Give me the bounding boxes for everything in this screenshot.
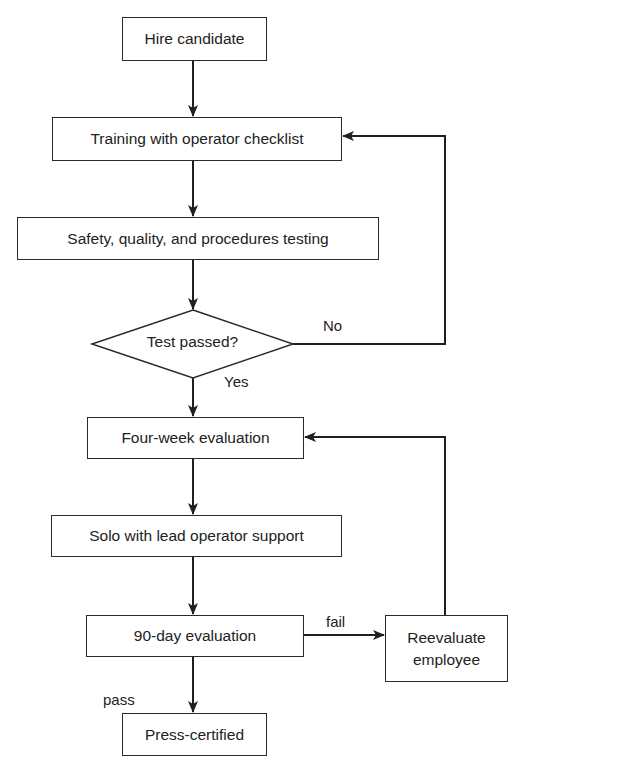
node-testing: Safety, quality, and procedures testing xyxy=(17,217,379,260)
node-training: Training with operator checklist xyxy=(52,117,342,161)
node-hire-candidate: Hire candidate xyxy=(122,17,267,61)
node-label-line2: employee xyxy=(413,649,480,671)
node-label: Solo with lead operator support xyxy=(89,525,304,547)
node-label: Hire candidate xyxy=(145,28,245,50)
edge-label-fail: fail xyxy=(326,613,345,630)
node-label-line1: Reevaluate xyxy=(407,627,485,649)
edge-label-yes: Yes xyxy=(224,373,248,390)
node-solo-support: Solo with lead operator support xyxy=(51,515,342,557)
node-press-certified: Press-certified xyxy=(122,713,267,756)
node-label: Press-certified xyxy=(145,724,244,746)
node-four-week-evaluation: Four-week evaluation xyxy=(87,417,304,459)
node-label: Training with operator checklist xyxy=(90,128,303,150)
decision-label: Test passed? xyxy=(92,333,293,351)
edge-label-no: No xyxy=(323,317,342,334)
flowchart-canvas: Hire candidate Training with operator ch… xyxy=(0,0,633,774)
node-label: 90-day evaluation xyxy=(134,625,256,647)
node-label: Safety, quality, and procedures testing xyxy=(67,228,328,250)
node-reevaluate-employee: Reevaluate employee xyxy=(385,615,508,682)
edge-label-pass: pass xyxy=(103,691,135,708)
node-label: Four-week evaluation xyxy=(121,427,269,449)
node-ninety-day-evaluation: 90-day evaluation xyxy=(86,615,304,657)
